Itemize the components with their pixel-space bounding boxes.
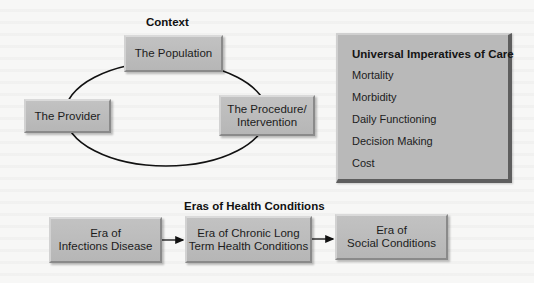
era2-label-line1: Era of Chronic Long: [197, 227, 299, 240]
context-heading: Context: [146, 16, 189, 28]
universal-imperatives-panel: Universal Imperatives of Care Mortality …: [336, 33, 512, 183]
imperative-item-daily-functioning: Daily Functioning: [352, 113, 508, 135]
procedure-label-line1: The Procedure/: [227, 103, 306, 116]
population-label: The Population: [135, 47, 212, 60]
era-infectious-disease-box: Era of Infections Disease: [49, 217, 162, 263]
imperative-item-decision-making: Decision Making: [352, 135, 508, 157]
imperative-item-mortality: Mortality: [352, 69, 508, 91]
procedure-label-line2: Intervention: [237, 116, 297, 129]
era1-label-line2: Infections Disease: [59, 240, 153, 253]
era1-label-line1: Era of: [90, 227, 121, 240]
provider-label: The Provider: [35, 110, 101, 123]
imperative-item-morbidity: Morbidity: [352, 91, 508, 113]
provider-box: The Provider: [24, 99, 111, 133]
population-box: The Population: [124, 35, 223, 72]
imperatives-title: Universal Imperatives of Care: [352, 48, 508, 60]
era2-label-line2: Term Health Conditions: [189, 240, 309, 253]
imperative-item-cost: Cost: [352, 157, 508, 179]
procedure-box: The Procedure/ Intervention: [219, 95, 315, 136]
era3-label-line2: Social Conditions: [347, 237, 436, 250]
eras-heading: Eras of Health Conditions: [184, 200, 325, 212]
era3-label-line1: Era of: [376, 224, 407, 237]
era-chronic-conditions-box: Era of Chronic Long Term Health Conditio…: [185, 216, 312, 263]
era-social-conditions-box: Era of Social Conditions: [335, 214, 448, 260]
